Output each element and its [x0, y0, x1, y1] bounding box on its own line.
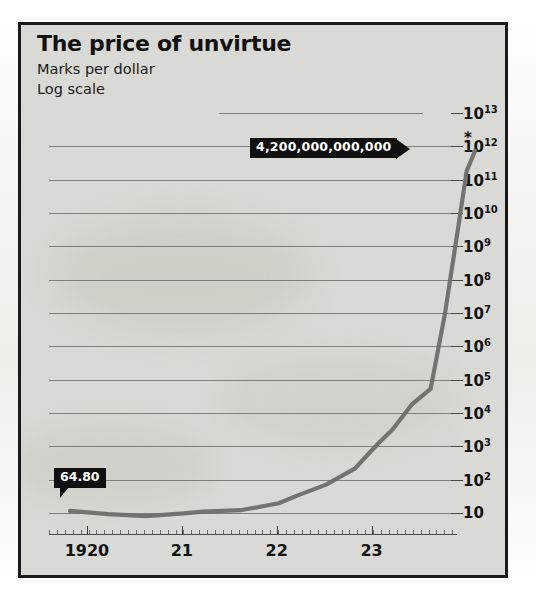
y-axis-label: 109: [463, 237, 491, 256]
x-axis-minor-tick: [57, 530, 58, 534]
peak-value-callout: 4,200,000,000,000: [250, 138, 397, 158]
y-axis-tick: [451, 180, 463, 181]
x-axis-minor-tick: [160, 530, 161, 534]
x-axis-minor-tick: [444, 530, 445, 534]
x-axis-minor-tick: [112, 530, 113, 534]
start-value-callout: 64.80: [54, 468, 106, 488]
x-axis-minor-tick: [183, 530, 184, 534]
y-axis-tick: [451, 346, 463, 347]
x-axis-minor-tick: [349, 530, 350, 534]
gridline: [49, 280, 451, 281]
y-axis-label: 103: [463, 437, 491, 456]
x-axis-label: 1920: [65, 541, 110, 560]
peak-value-text: 4,200,000,000,000: [256, 139, 391, 154]
x-axis-minor-tick: [65, 530, 66, 534]
x-axis-minor-tick: [294, 530, 295, 534]
x-axis-minor-tick: [302, 530, 303, 534]
y-axis-label: 1011: [463, 170, 498, 189]
gridline: [49, 346, 451, 347]
y-axis-label: 108: [463, 270, 491, 289]
x-axis-minor-tick: [381, 530, 382, 534]
y-axis-label: 1010: [463, 204, 498, 223]
gridline: [49, 180, 451, 181]
x-axis-minor-tick: [421, 530, 422, 534]
x-axis-minor-tick: [357, 530, 358, 534]
x-axis-minor-tick: [262, 530, 263, 534]
gridline: [49, 313, 451, 314]
x-axis-minor-tick: [286, 530, 287, 534]
y-axis-label: 102: [463, 470, 491, 489]
x-axis-label: 23: [360, 541, 382, 560]
x-axis-minor-tick: [239, 530, 240, 534]
x-axis-minor-tick: [334, 530, 335, 534]
x-axis-minor-tick: [326, 530, 327, 534]
x-axis-minor-tick: [231, 530, 232, 534]
y-axis-tick: [451, 480, 463, 481]
x-axis-minor-tick: [318, 530, 319, 534]
x-axis-minor-tick: [81, 530, 82, 534]
x-axis-minor-tick: [389, 530, 390, 534]
x-axis-minor-tick: [278, 530, 279, 534]
x-axis-minor-tick: [144, 530, 145, 534]
x-axis-minor-tick: [429, 530, 430, 534]
x-axis-minor-tick: [452, 530, 453, 534]
chart-subtitle-scale: Log scale: [37, 81, 105, 97]
x-axis-minor-tick: [207, 530, 208, 534]
x-axis-minor-tick: [136, 530, 137, 534]
x-axis-label: 21: [171, 541, 193, 560]
x-axis-minor-tick: [89, 530, 90, 534]
x-axis-minor-tick: [310, 530, 311, 534]
x-axis-minor-tick: [342, 530, 343, 534]
x-axis-minor-tick: [255, 530, 256, 534]
y-axis-label: 107: [463, 304, 491, 323]
chart-figure: The price of unvirtue Marks per dollar L…: [18, 22, 508, 578]
gridline: [49, 246, 451, 247]
y-axis-tick: [451, 380, 463, 381]
gridline: [49, 380, 451, 381]
y-axis-label: 10: [463, 504, 484, 522]
x-axis-minor-tick: [373, 530, 374, 534]
x-axis-minor-tick: [152, 530, 153, 534]
x-axis-minor-tick: [405, 530, 406, 534]
x-axis-minor-tick: [73, 530, 74, 534]
y-axis-tick: [451, 513, 463, 514]
y-axis-tick: [451, 280, 463, 281]
y-axis-label: 104: [463, 404, 491, 423]
x-axis-minor-tick: [96, 530, 97, 534]
x-axis-minor-tick: [397, 530, 398, 534]
x-axis-minor-tick: [168, 530, 169, 534]
x-axis-minor-tick: [191, 530, 192, 534]
y-axis-tick: [451, 113, 463, 114]
x-axis-minor-tick: [270, 530, 271, 534]
y-axis-label: 1013: [463, 104, 498, 123]
x-axis-minor-tick: [199, 530, 200, 534]
y-axis-tick: [451, 413, 463, 414]
x-axis-minor-tick: [104, 530, 105, 534]
x-axis-minor-tick: [436, 530, 437, 534]
y-axis-tick: [451, 246, 463, 247]
gridline: [49, 480, 451, 481]
plot-area: [49, 113, 451, 521]
x-axis-minor-tick: [365, 530, 366, 534]
x-axis-minor-tick: [176, 530, 177, 534]
x-axis-line: [49, 534, 457, 535]
y-axis-tick: [451, 146, 463, 147]
y-axis-tick: [451, 313, 463, 314]
x-axis-minor-tick: [49, 530, 50, 534]
y-axis-label: 106: [463, 337, 491, 356]
x-axis-minor-tick: [120, 530, 121, 534]
gridline: [49, 413, 451, 414]
chart-footnote: *November 15th, new currency issued: [279, 574, 481, 578]
y-axis-tick: [451, 446, 463, 447]
callout-pointer-icon: [396, 139, 410, 159]
x-axis-label: 22: [266, 541, 288, 560]
chart-title: The price of unvirtue: [37, 31, 291, 56]
callout-pointer-icon: [60, 487, 69, 498]
gridline: [49, 513, 451, 514]
gridline: [49, 213, 451, 214]
gridline: [219, 113, 423, 114]
x-axis-minor-tick: [128, 530, 129, 534]
y-axis-tick: [451, 213, 463, 214]
y-axis-label: 105: [463, 370, 491, 389]
x-axis-minor-tick: [413, 530, 414, 534]
